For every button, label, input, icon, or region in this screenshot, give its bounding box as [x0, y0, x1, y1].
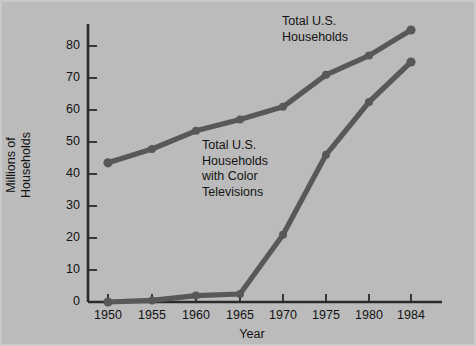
y-tick-label-80: 80 — [54, 38, 80, 52]
x-tick-label-1970: 1970 — [260, 308, 306, 322]
y-tick-label-40: 40 — [54, 166, 80, 180]
annotation-color-televisions-line-2: Households — [202, 154, 268, 170]
x-tick-label-1980: 1980 — [346, 308, 392, 322]
y-tick-label-0: 0 — [54, 294, 80, 308]
x-tick-label-1960: 1960 — [173, 308, 219, 322]
chart-figure: 0 10 20 30 40 50 60 70 80 1950 1955 1960… — [0, 0, 476, 346]
annotation-total-households-line-1: Total U.S. — [282, 14, 348, 30]
y-axis-title-line-1: Millions of — [4, 122, 19, 208]
annotation-color-televisions: Total U.S. Households with Color Televis… — [202, 138, 268, 200]
annotation-total-households: Total U.S. Households — [282, 14, 348, 45]
y-tick-label-60: 60 — [54, 102, 80, 116]
y-tick-label-30: 30 — [54, 198, 80, 212]
y-tick-marks — [88, 46, 97, 302]
y-tick-label-70: 70 — [54, 70, 80, 84]
y-tick-label-10: 10 — [54, 262, 80, 276]
x-tick-label-1984: 1984 — [388, 308, 434, 322]
y-axis-title-line-2: Households — [19, 122, 34, 208]
x-tick-label-1955: 1955 — [129, 308, 175, 322]
y-tick-label-50: 50 — [54, 134, 80, 148]
annotation-color-televisions-line-3: with Color — [202, 169, 268, 185]
x-tick-label-1950: 1950 — [85, 308, 131, 322]
x-axis-title: Year — [222, 327, 282, 341]
annotation-color-televisions-line-4: Televisions — [202, 185, 268, 201]
y-tick-label-20: 20 — [54, 230, 80, 244]
annotation-color-televisions-line-1: Total U.S. — [202, 138, 268, 154]
annotation-total-households-line-2: Households — [282, 30, 348, 46]
x-tick-label-1965: 1965 — [217, 308, 263, 322]
x-tick-label-1975: 1975 — [303, 308, 349, 322]
y-axis-title: Millions of Households — [4, 122, 34, 208]
